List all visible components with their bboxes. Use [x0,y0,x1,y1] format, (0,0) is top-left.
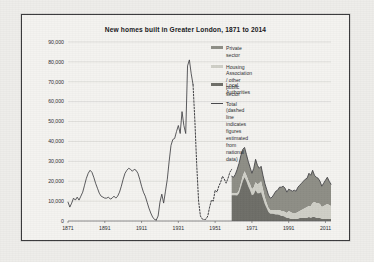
legend-item: Local Authorities [211,82,250,96]
y-axis-tick-labels: 010,00020,00030,00040,00050,00060,00070,… [48,39,64,224]
legend-color-swatch-icon [211,46,223,49]
legend-item-label: Total (dashed line indicates figures est… [226,101,248,163]
y-axis-tick-label: 90,000 [48,39,64,45]
chart-frame: New homes built in Greater London, 1871 … [21,14,350,241]
y-axis-tick-label: 70,000 [48,79,64,85]
x-axis-tick-label: 1931 [173,225,185,231]
gridlines [68,42,331,201]
x-axis-tick-labels: 18711891191119311951197119912011 [62,225,331,231]
y-axis-tick-label: 50,000 [48,118,64,124]
legend-item: Total (dashed line indicates figures est… [211,101,248,163]
total-line [68,168,156,220]
chart-plot-area: 010,00020,00030,00040,00050,00060,00070,… [22,15,351,242]
legend-item-label: Local Authorities [226,82,250,96]
y-axis-tick-label: 20,000 [48,178,64,184]
x-axis-tick-label: 1911 [136,225,147,231]
legend-line-swatch-icon [211,103,223,104]
x-axis-tick-label: 1871 [62,225,74,231]
figure-root: New homes built in Greater London, 1871 … [0,0,374,262]
y-axis-tick-label: 10,000 [48,198,64,204]
legend-item: Private sector [211,45,242,59]
x-axis-tick-label: 1951 [209,225,221,231]
y-axis-tick-label: 0 [61,218,64,224]
x-axis-tick-label: 1991 [283,225,295,231]
x-axis-tick-label: 1891 [99,225,111,231]
y-axis-tick-label: 40,000 [48,138,64,144]
legend-color-swatch-icon [211,65,223,68]
x-axis-tick-label: 1971 [246,225,258,231]
y-axis-tick-label: 30,000 [48,158,64,164]
legend-item-label: Private sector [226,45,242,59]
legend-color-swatch-icon [211,83,223,86]
y-axis-tick-label: 80,000 [48,59,64,65]
x-axis-tick-label: 2011 [320,225,331,231]
axes [68,221,331,223]
total-line [156,60,193,220]
y-axis-tick-label: 60,000 [48,98,64,104]
